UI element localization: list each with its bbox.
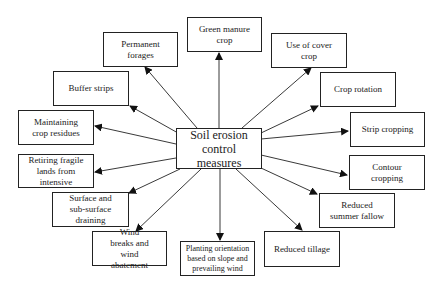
node-reduced-tillage: Reduced tillage xyxy=(264,231,340,267)
node-crop-rotation: Crop rotation xyxy=(320,72,396,107)
node-reduced-summer-fallow: Reduced summer fallow xyxy=(319,193,395,228)
arrow-to-contour-cropping xyxy=(261,155,347,175)
arrow-to-wind-breaks xyxy=(136,169,201,231)
arrow-to-surface-sub-surface-draining xyxy=(129,169,180,193)
node-planting-orientation: Planting orientation based on slope and … xyxy=(180,241,255,276)
center-node: Soil erosion control measures xyxy=(176,128,262,169)
arrow-to-maintaining-crop-residues xyxy=(95,126,176,144)
arrow-to-reduced-tillage xyxy=(236,169,302,230)
node-surface-sub-surface-draining: Surface and sub-surface draining xyxy=(52,192,129,227)
arrow-to-crop-rotation xyxy=(261,106,318,133)
node-maintaining-crop-residues: Maintaining crop residues xyxy=(18,110,94,145)
arrow-to-retiring-fragile-lands xyxy=(95,158,176,172)
arrow-to-reduced-summer-fallow xyxy=(261,168,317,194)
node-buffer-strips: Buffer strips xyxy=(53,71,129,106)
arrow-to-use-of-cover-crop xyxy=(242,68,311,128)
arrow-to-strip-cropping xyxy=(261,131,348,139)
node-green-manure-crop: Green manure crop xyxy=(187,17,262,52)
node-wind-breaks: Wind breaks and wind abatement xyxy=(92,231,167,266)
node-use-of-cover-crop: Use of cover crop xyxy=(271,33,347,68)
node-strip-cropping: Strip cropping xyxy=(350,112,425,147)
soil-erosion-diagram: Soil erosion control measures Green manu… xyxy=(0,0,439,284)
node-permanent-forages: Permanent forages xyxy=(103,32,178,67)
node-contour-cropping: Contour cropping xyxy=(349,155,425,190)
node-retiring-fragile-lands: Retiring fragile lands from intensive xyxy=(18,154,94,188)
arrow-to-buffer-strips xyxy=(130,106,178,133)
